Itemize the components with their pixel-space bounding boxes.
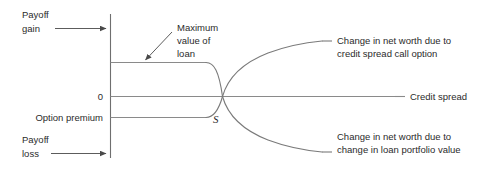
- lower-curve-label-line1: Change in net worth due to: [337, 131, 451, 142]
- maximum-value-label-line1: Maximum: [177, 22, 218, 33]
- upper-curve-label-line2: credit spread call option: [337, 48, 437, 59]
- credit-spread-call-option-curve: [206, 41, 322, 118]
- option-premium-label: Option premium: [35, 112, 103, 123]
- strike-marker-label: S: [213, 113, 219, 125]
- diagram-canvas: Payoff gain Payoff loss 0 Option premium…: [0, 0, 497, 172]
- loan-portfolio-value-curve: [206, 63, 322, 153]
- credit-spread-axis-label: Credit spread: [410, 91, 467, 102]
- maximum-value-label-line2: value of: [177, 35, 211, 46]
- payoff-loss-label-line2: loss: [22, 148, 39, 159]
- origin-zero-label: 0: [98, 91, 103, 102]
- maximum-value-of-loan-arrow: [146, 32, 173, 60]
- maximum-value-label-line3: loan: [177, 48, 195, 59]
- payoff-gain-label-line1: Payoff: [22, 9, 49, 20]
- payoff-diagram: Payoff gain Payoff loss 0 Option premium…: [0, 0, 497, 172]
- payoff-loss-label-line1: Payoff: [22, 134, 49, 145]
- lower-curve-label-line2: change in loan portfolio value: [337, 144, 461, 155]
- upper-curve-label-line1: Change in net worth due to: [337, 35, 451, 46]
- payoff-gain-label-line2: gain: [22, 23, 40, 34]
